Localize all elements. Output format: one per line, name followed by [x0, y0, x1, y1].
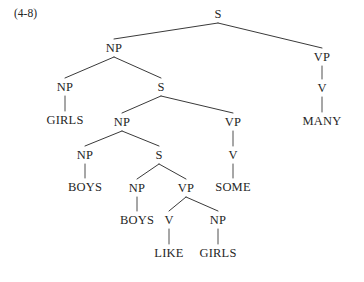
tree-node-s: S: [155, 149, 162, 162]
tree-node-vp: VP: [225, 116, 241, 129]
tree-terminal-boys: BOYS: [68, 181, 102, 194]
tree-node-v: V: [228, 149, 237, 162]
tree-terminal-girls: GIRLS: [199, 247, 236, 260]
tree-node-v: V: [317, 82, 326, 95]
tree-node-np: NP: [129, 182, 145, 195]
tree-terminal-some: SOME: [215, 181, 251, 194]
tree-terminal-like: LIKE: [154, 247, 183, 260]
tree-node-s: S: [214, 8, 221, 21]
tree-node-np: NP: [77, 149, 93, 162]
tree-node-layer: SNPVPNPSVGIRLSMANYNPVPNPSVBOYSNPVPSOMEBO…: [0, 0, 364, 282]
tree-node-np: NP: [210, 214, 226, 227]
tree-node-s: S: [157, 81, 164, 94]
tree-node-vp: VP: [178, 182, 194, 195]
tree-node-np: NP: [114, 116, 130, 129]
tree-terminal-girls: GIRLS: [46, 114, 83, 127]
tree-node-vp: VP: [314, 51, 330, 64]
tree-node-np: NP: [57, 81, 73, 94]
tree-terminal-boys: BOYS: [120, 214, 154, 227]
syntax-tree-figure: (4-8) SNPVPNPSVGIRLSMANYNPVPNPSVBOYSNPVP…: [0, 0, 364, 282]
tree-node-v: V: [164, 214, 173, 227]
tree-node-np: NP: [106, 42, 122, 55]
tree-terminal-many: MANY: [303, 115, 342, 128]
